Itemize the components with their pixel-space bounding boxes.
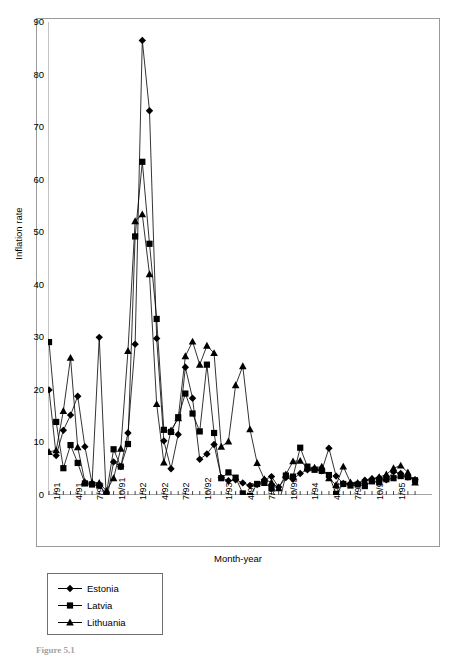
x-axis-tick: 7/93 — [268, 482, 277, 500]
x-axis-tick: 1/93 — [225, 482, 234, 500]
x-axis-tick: 7/94 — [354, 482, 363, 500]
x-axis-tick: 7/92 — [182, 482, 191, 500]
triangle-marker — [57, 616, 83, 629]
x-axis-tick: 4/93 — [247, 482, 256, 500]
chart-canvas — [48, 22, 432, 495]
x-axis-tick: 1/92 — [139, 482, 148, 500]
figure-root: 0102030405060708090 Inflation rate 1/914… — [0, 0, 452, 659]
x-axis-tick: 7/91 — [96, 482, 105, 500]
y-axis-tick: 0 — [18, 490, 44, 500]
x-axis-title: Month-year — [36, 553, 440, 564]
legend-item-estonia[interactable]: Estonia — [48, 580, 162, 597]
x-axis-tick: 4/92 — [161, 482, 170, 500]
x-axis-tick: 1/91 — [53, 482, 62, 500]
x-axis-tick: 10/94 — [376, 477, 385, 500]
y-axis-tick: 30 — [18, 332, 44, 342]
x-axis-tick: 10/93 — [290, 477, 299, 500]
y-axis-tick: 90 — [18, 17, 44, 27]
y-axis-tick: 80 — [18, 70, 44, 80]
x-axis-tick: 1/94 — [311, 482, 320, 500]
diamond-marker — [57, 582, 83, 595]
legend-item-lithuania[interactable]: Lithuania — [48, 614, 162, 631]
x-axis-tick: 10/92 — [204, 477, 213, 500]
square-marker — [57, 599, 83, 612]
x-axis-tick: 10/91 — [118, 477, 127, 500]
legend-item-latvia[interactable]: Latvia — [48, 597, 162, 614]
y-axis-tick: 10 — [18, 437, 44, 447]
x-axis-tick: 4/94 — [333, 482, 342, 500]
legend-label: Lithuania — [87, 617, 126, 628]
legend-label: Latvia — [87, 600, 112, 611]
plot-area — [48, 22, 432, 495]
x-axis-tick-labels: 1/914/917/9110/911/924/927/9210/921/934/… — [48, 498, 438, 542]
y-axis-tick: 20 — [18, 385, 44, 395]
chart-legend: EstoniaLatviaLithuania — [47, 573, 163, 635]
x-axis-tick: 4/91 — [75, 482, 84, 500]
legend-label: Estonia — [87, 583, 119, 594]
figure-caption: Figure 5.1 — [36, 645, 75, 655]
y-axis-tick: 70 — [18, 122, 44, 132]
y-axis-title: Inflation rate — [13, 184, 24, 284]
x-axis-tick: 1/95 — [398, 482, 407, 500]
